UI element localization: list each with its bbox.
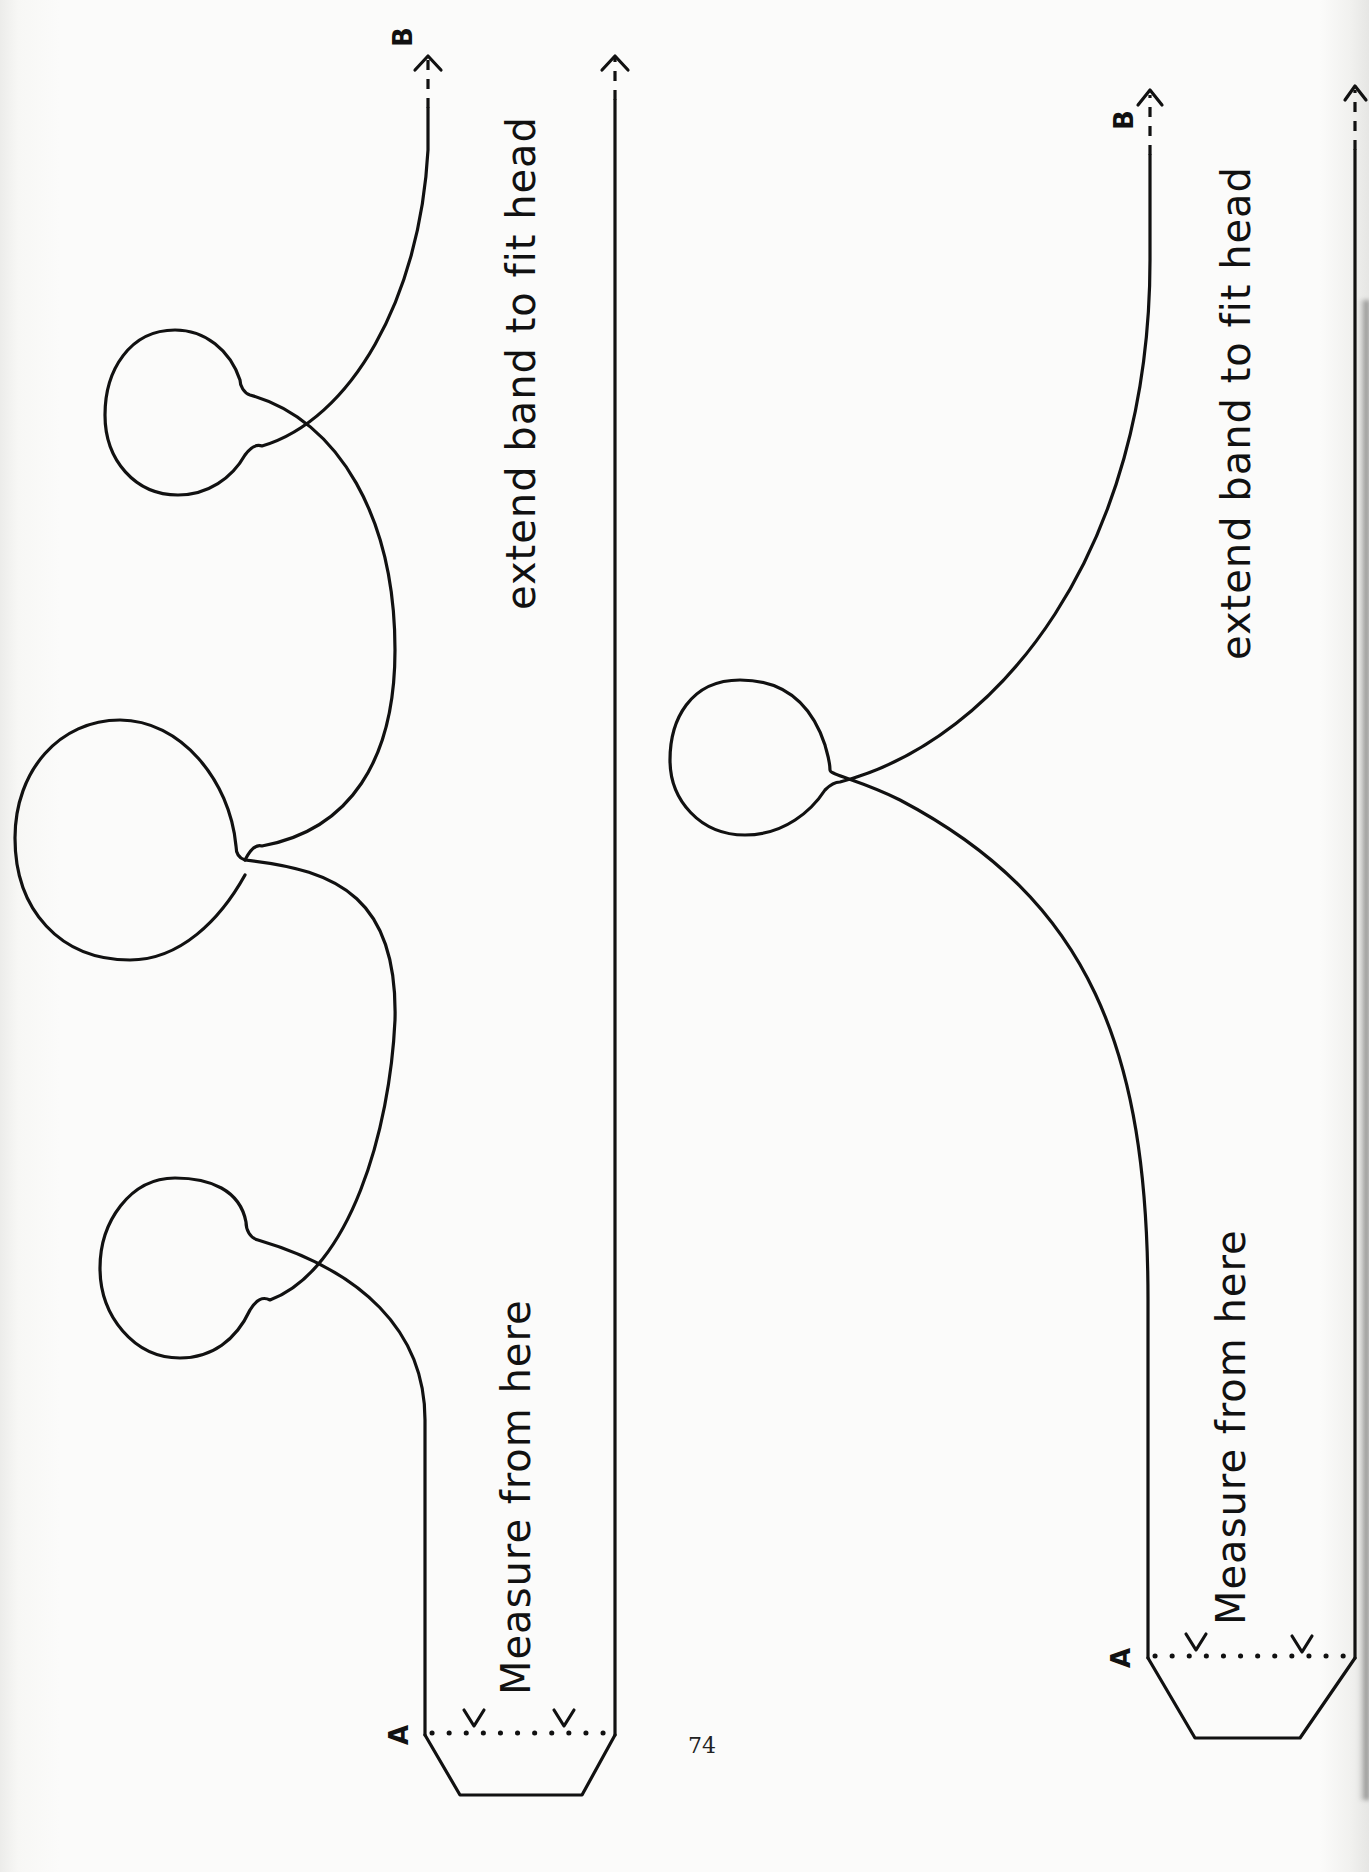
label-a: A — [384, 1725, 414, 1745]
label-a: A — [1106, 1648, 1136, 1668]
crown-top-edge — [15, 720, 425, 1735]
tab-a — [425, 1735, 615, 1795]
pattern-left: A B Measure from here extend band to fit… — [15, 27, 628, 1795]
fold-mark-icon — [464, 1710, 484, 1726]
tab-a — [1148, 1658, 1355, 1738]
label-b: B — [1109, 110, 1139, 130]
pattern-right: A B Measure from here extend band to fit… — [670, 86, 1366, 1738]
crown-patterns-drawing: A B Measure from here extend band to fit… — [0, 0, 1369, 1872]
crown-top-edge — [670, 155, 1150, 1658]
measure-from-here-text: Measure from here — [493, 1299, 539, 1695]
fold-mark-icon — [1292, 1636, 1312, 1652]
fold-mark-icon — [554, 1710, 574, 1726]
label-b: B — [388, 27, 418, 47]
fold-mark-icon — [1186, 1634, 1206, 1650]
extend-band-text: extend band to fit head — [1213, 166, 1259, 660]
page-number: 74 — [688, 1733, 716, 1758]
extend-band-text: extend band to fit head — [498, 116, 544, 610]
arrow-head-icon — [602, 56, 628, 70]
crown-top-edge-2 — [105, 108, 428, 860]
measure-from-here-text: Measure from here — [1208, 1229, 1254, 1625]
scanned-page: A B Measure from here extend band to fit… — [0, 0, 1369, 1872]
